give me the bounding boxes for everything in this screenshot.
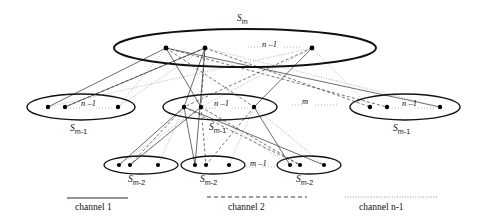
node-point xyxy=(203,46,208,51)
edge-solid xyxy=(184,107,195,165)
count-label-mid-center: n –1 xyxy=(214,99,229,108)
node-point xyxy=(288,163,292,167)
count-label-mid-right: n –1 xyxy=(402,99,417,108)
nodes-level-2 xyxy=(117,163,326,167)
node-point xyxy=(204,163,208,167)
node-point xyxy=(322,163,326,167)
edges-top-to-mid xyxy=(48,48,440,107)
node-point xyxy=(116,105,120,109)
node-point xyxy=(252,105,256,109)
edge-solid xyxy=(184,48,205,107)
set-label-sm2-center: Sm-2 xyxy=(200,175,217,186)
set-label-sm1-center: Sm-1 xyxy=(209,123,226,134)
set-label-sm1-left: Sm-1 xyxy=(70,124,87,135)
legend-label-channel-2: channel 2 xyxy=(228,203,265,213)
ellipse-set-sm2-center xyxy=(181,156,245,174)
node-point xyxy=(298,163,302,167)
count-label-mid-left: n –1 xyxy=(81,99,96,108)
set-label-sm2-left-sub: m-2 xyxy=(133,178,145,187)
node-point xyxy=(156,163,160,167)
node-point xyxy=(128,163,132,167)
nodes-level-0 xyxy=(164,46,315,51)
set-label-sm1-center-sub: m-1 xyxy=(214,126,226,135)
between-label-m-minus-1: m –1 xyxy=(250,159,267,168)
node-point xyxy=(164,46,169,51)
node-point xyxy=(438,105,442,109)
set-label-sm1-right: Sm-1 xyxy=(393,124,410,135)
edge-dashed xyxy=(184,48,312,107)
set-hierarchy-diagram xyxy=(0,0,481,223)
legend-label-channel-1: channel 1 xyxy=(75,203,112,213)
node-point xyxy=(385,105,389,109)
set-label-sm1-right-sub: m-1 xyxy=(398,127,410,136)
edge-group-solid-top xyxy=(48,48,440,107)
ellipse-set-sm xyxy=(114,29,376,67)
node-point xyxy=(63,105,67,109)
node-point xyxy=(368,105,372,109)
between-label-m: m xyxy=(302,97,308,106)
node-point xyxy=(199,105,203,109)
node-point xyxy=(193,163,197,167)
figure-canvas: Sm n –1 n –1 n –1 n –1 m Sm-1 Sm-1 Sm-1 … xyxy=(0,0,481,223)
set-label-sm2-left: Sm-2 xyxy=(128,175,145,186)
count-label-top: n –1 xyxy=(262,40,277,49)
node-point xyxy=(182,105,186,109)
edge-dashed xyxy=(205,48,370,107)
set-label-sm2-right-sub: m-2 xyxy=(301,178,313,187)
set-label-sm: Sm xyxy=(237,14,248,25)
set-label-sm1-left-sub: m-1 xyxy=(75,127,87,136)
node-point xyxy=(46,105,50,109)
set-label-sm2-center-sub: m-2 xyxy=(205,178,217,187)
ellipse-set-sm2-left xyxy=(104,156,178,174)
edge-solid xyxy=(48,48,166,107)
set-label-sm-sub: m xyxy=(242,17,248,26)
nodes-level-1 xyxy=(46,105,442,109)
node-point xyxy=(310,46,315,51)
node-point xyxy=(117,163,121,167)
edge-dotted xyxy=(229,107,254,165)
legend-label-channel-n-1: channel n-1 xyxy=(359,203,404,213)
edge-dotted xyxy=(118,48,166,107)
edge-dashed xyxy=(166,48,387,107)
node-point xyxy=(227,163,231,167)
set-label-sm2-right: Sm-2 xyxy=(296,175,313,186)
